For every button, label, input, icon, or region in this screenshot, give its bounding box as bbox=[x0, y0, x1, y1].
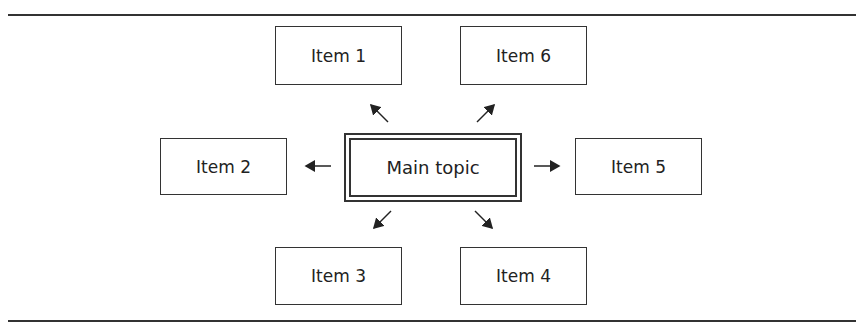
arrow-to-item-4-icon bbox=[475, 211, 492, 228]
arrow-to-item-1-icon bbox=[371, 105, 388, 122]
arrows-layer bbox=[0, 0, 864, 331]
arrow-to-item-3-icon bbox=[374, 211, 391, 228]
arrow-to-item-6-icon bbox=[477, 105, 494, 122]
